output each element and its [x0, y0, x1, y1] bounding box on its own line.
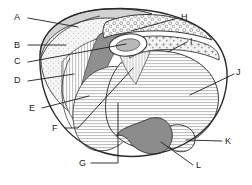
label-i: I: [190, 37, 193, 46]
label-k: K: [225, 137, 231, 146]
label-a: A: [14, 13, 20, 22]
label-d: D: [14, 76, 21, 85]
label-j: J: [236, 68, 241, 77]
anatomy-figure: [0, 0, 252, 185]
label-g: G: [79, 159, 86, 168]
label-f: F: [52, 124, 58, 133]
label-h: H: [181, 13, 188, 22]
label-b: B: [14, 41, 20, 50]
label-e: E: [29, 104, 35, 113]
label-c: C: [14, 57, 21, 66]
label-l: L: [196, 161, 201, 170]
diagram-canvas: A B C D E F G H I J K L: [0, 0, 252, 185]
